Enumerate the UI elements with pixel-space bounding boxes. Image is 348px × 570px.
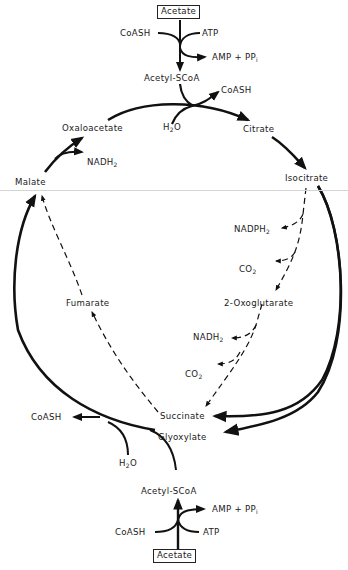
label-main: AMP + PP: [212, 504, 256, 514]
cofactor-nadph2: NADPH2: [234, 225, 270, 235]
node-citrate: Citrate: [243, 125, 274, 134]
label-sub: 2: [198, 373, 202, 380]
cofactor-co2-upper: CO2: [239, 265, 257, 275]
node-isocitrate: Isocitrate: [285, 174, 328, 183]
isocitrate-lyase-arcs: [215, 186, 341, 432]
cofactor-h2o-top: H2O: [163, 123, 181, 133]
cofactor-nadh2-lower: NADH2: [193, 333, 224, 343]
node-malate: Malate: [15, 178, 46, 187]
label-tail: O: [130, 458, 137, 468]
label-main: CO: [185, 369, 198, 379]
node-acetyl-scoa-top: Acetyl-SCoA: [144, 74, 200, 83]
node-label: Acetate: [157, 550, 192, 560]
node-label: Acetate: [161, 6, 196, 16]
node-oxaloacetate: Oxaloacetate: [62, 124, 123, 133]
cofactor-coash-bottom-out: CoASH: [31, 413, 62, 422]
label-sub: 2: [252, 268, 256, 275]
cofactor-coash-top-in: CoASH: [120, 29, 151, 38]
label-main: H: [119, 458, 126, 468]
cofactor-atp-bottom: ATP: [203, 528, 220, 537]
label-main: H: [163, 122, 170, 132]
cofactor-amp-ppi-top: AMP + PPi: [212, 53, 258, 63]
label-main: NADH: [193, 332, 220, 342]
label-sub: 2: [266, 228, 270, 235]
node-glyoxylate: Glyoxylate: [158, 433, 207, 442]
cofactor-amp-ppi-bottom: AMP + PPi: [212, 505, 258, 515]
cofactor-atp-top: ATP: [202, 29, 219, 38]
label-sub: i: [256, 508, 258, 515]
pathway-diagram: [0, 0, 348, 570]
top-activation-arrows: [158, 20, 205, 70]
label-main: AMP + PP: [212, 52, 256, 62]
node-acetyl-scoa-bottom: Acetyl-SCoA: [141, 487, 197, 496]
node-acetate-bottom: Acetate: [153, 549, 196, 563]
label-main: NADPH: [234, 224, 266, 234]
label-sub: 2: [220, 336, 224, 343]
cofactor-h2o-bottom: H2O: [119, 459, 137, 469]
arrow-citrate-isocitrate: [272, 137, 305, 168]
node-fumarate: Fumarate: [66, 299, 109, 308]
label-main: CO: [239, 264, 252, 274]
cofactor-coash-bottom-in: CoASH: [115, 528, 146, 537]
cofactor-coash-top-out: CoASH: [221, 86, 252, 95]
label-sub: i: [256, 56, 258, 63]
dashed-tca-right: [206, 188, 306, 406]
label-sub: 2: [114, 161, 118, 168]
scan-divider-line: [0, 190, 348, 191]
node-2-oxoglutarate: 2-Oxoglutarate: [224, 299, 293, 308]
cofactor-co2-lower: CO2: [185, 370, 203, 380]
node-acetate-top: Acetate: [157, 5, 200, 19]
malate-synthase-arc: [14, 196, 176, 470]
node-succinate: Succinate: [160, 412, 205, 421]
label-tail: O: [174, 122, 181, 132]
label-main: NADH: [87, 157, 114, 167]
cofactor-nadh2-top: NADH2: [87, 158, 118, 168]
arrow-malate-oxaloacetate: [45, 138, 82, 172]
bottom-activation-arrows: [155, 500, 204, 550]
